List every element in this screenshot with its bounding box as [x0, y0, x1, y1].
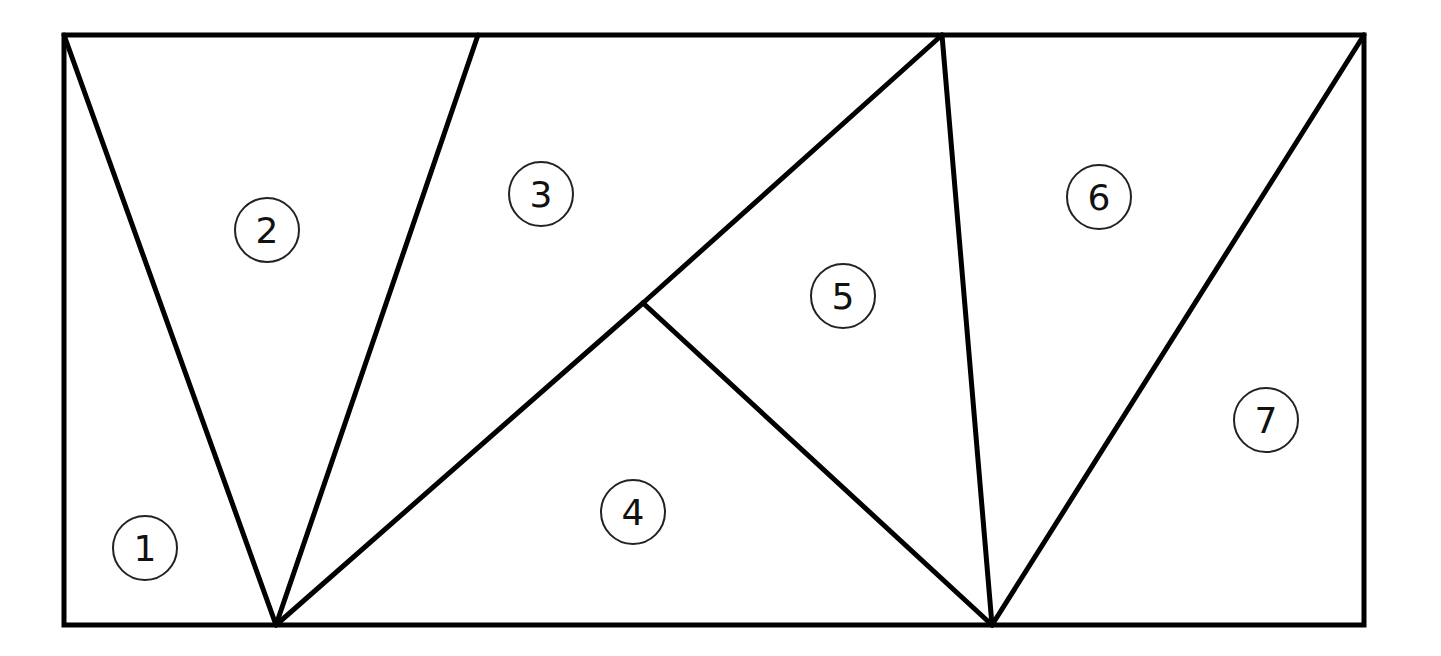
- region-number: 1: [134, 528, 157, 569]
- segment-G-F: [643, 303, 992, 625]
- segment-D-F: [992, 35, 1364, 625]
- region-number: 7: [1255, 400, 1278, 441]
- dividing-lines: [64, 35, 1364, 625]
- region-number: 2: [256, 210, 279, 251]
- region-label-6: 6: [1067, 165, 1131, 229]
- region-labels: 1234567: [113, 162, 1298, 580]
- region-label-3: 3: [509, 162, 573, 226]
- region-label-2: 2: [235, 198, 299, 262]
- outer-rectangle: [64, 35, 1364, 625]
- region-number: 4: [622, 492, 645, 533]
- region-label-4: 4: [601, 480, 665, 544]
- region-label-7: 7: [1234, 388, 1298, 452]
- segment-G-C: [643, 35, 942, 303]
- region-number: 6: [1088, 177, 1111, 218]
- region-label-5: 5: [811, 264, 875, 328]
- region-number: 3: [530, 174, 553, 215]
- segment-C-F: [942, 35, 992, 625]
- triangle-partition-diagram: 1234567: [0, 0, 1441, 656]
- region-number: 5: [832, 276, 855, 317]
- region-label-1: 1: [113, 516, 177, 580]
